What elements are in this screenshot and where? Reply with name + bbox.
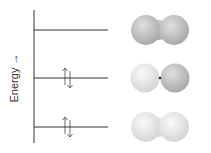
orbital-middle: [131, 64, 190, 93]
orbital-top: [131, 15, 189, 45]
mo-diagram: [0, 0, 211, 153]
orbital-bottom: [131, 112, 189, 142]
